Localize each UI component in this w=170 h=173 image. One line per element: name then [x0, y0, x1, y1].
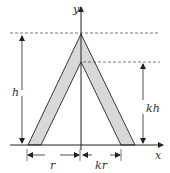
y-axis-label: y: [72, 3, 80, 16]
x-axis-label: x: [155, 149, 162, 162]
diagram-svg: y x h kh r kr: [0, 0, 170, 173]
diagram-canvas: y x h kh r kr: [0, 0, 170, 173]
h-label: h: [12, 86, 19, 99]
kh-label: kh: [146, 102, 160, 115]
kr-label: kr: [95, 159, 108, 172]
r-label: r: [50, 159, 56, 172]
